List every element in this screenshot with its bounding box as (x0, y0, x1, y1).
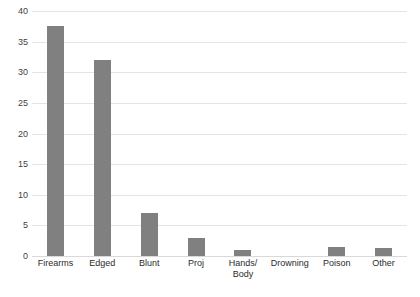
y-axis-tick-label: 25 (0, 98, 28, 107)
y-axis-tick-label: 10 (0, 190, 28, 199)
x-axis-category-label: Other (360, 258, 407, 280)
gridline-0 (32, 256, 407, 257)
x-axis-category-label: Edged (79, 258, 126, 280)
bar (94, 60, 111, 256)
y-axis-tick-label: 40 (0, 7, 28, 16)
bar-slot (313, 11, 360, 256)
x-axis-category-label: Drowning (266, 258, 313, 280)
bar-series (32, 11, 407, 256)
y-axis-tick-label: 15 (0, 160, 28, 169)
bar-slot (32, 11, 79, 256)
bar-slot (266, 11, 313, 256)
y-axis-tick-label: 20 (0, 129, 28, 138)
x-axis-category-label: Firearms (32, 258, 79, 280)
y-axis-tick-label: 35 (0, 37, 28, 46)
x-axis-category-label: Proj (173, 258, 220, 280)
bar (328, 247, 345, 256)
bar (234, 250, 251, 256)
bar (47, 26, 64, 256)
bar-slot (126, 11, 173, 256)
plot-area (32, 11, 407, 256)
y-axis-tick-label: 30 (0, 68, 28, 77)
x-axis-category-label: Blunt (126, 258, 173, 280)
bar (141, 213, 158, 256)
bar-slot (79, 11, 126, 256)
bar (375, 248, 392, 256)
bar-slot (173, 11, 220, 256)
bar (188, 238, 205, 256)
bar-slot (220, 11, 267, 256)
bar-chart: 0510152025303540 FirearmsEdgedBluntProjH… (0, 0, 420, 297)
x-axis-category-label: Hands/ Body (220, 258, 267, 280)
y-axis-tick-label: 0 (0, 252, 28, 261)
x-axis-category-label: Poison (313, 258, 360, 280)
y-axis-tick-label: 5 (0, 221, 28, 230)
y-axis: 0510152025303540 (0, 11, 28, 256)
x-axis: FirearmsEdgedBluntProjHands/ BodyDrownin… (32, 258, 407, 280)
bar-slot (360, 11, 407, 256)
